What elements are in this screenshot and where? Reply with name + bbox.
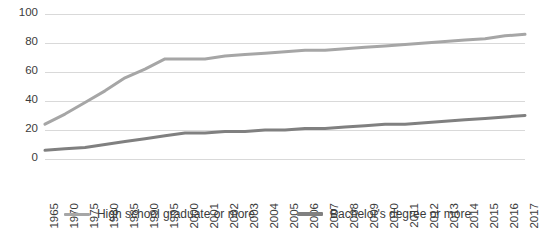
chart-legend: High school graduate or more Bachelor's … (0, 203, 535, 225)
series-line-high-school (45, 34, 525, 124)
legend-swatch-bachelors (297, 212, 323, 216)
gridlines (45, 15, 525, 160)
series-lines (45, 34, 525, 150)
x-axis-labels: 1965197019751980198519901995200020012002… (0, 160, 535, 206)
legend-label-bachelors: Bachelor's degree or more (330, 208, 471, 220)
plot-area (0, 0, 535, 166)
y-tick-label: 100 (4, 7, 38, 19)
legend-item-bachelors[interactable]: Bachelor's degree or more (297, 208, 471, 220)
y-axis-labels: 100806040200 (0, 0, 38, 166)
y-tick-label: 20 (4, 123, 38, 135)
y-tick-label: 80 (4, 36, 38, 48)
y-tick-label: 60 (4, 65, 38, 77)
legend-item-high-school[interactable]: High school graduate or more (64, 208, 255, 220)
legend-swatch-high-school (64, 213, 90, 216)
series-line-bachelors (45, 116, 525, 151)
legend-label-high-school: High school graduate or more (97, 208, 255, 220)
y-tick-label: 40 (4, 94, 38, 106)
plot-svg (0, 0, 535, 166)
